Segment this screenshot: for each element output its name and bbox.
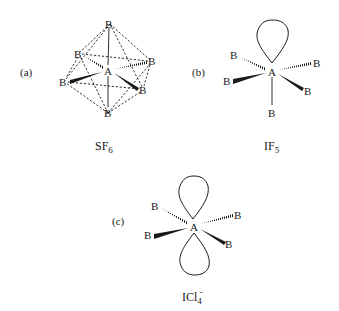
panel-a: (a) B B B B B B A SF [20, 18, 155, 155]
ligand-back-right: B [313, 57, 320, 69]
ligand-back-left: B [74, 48, 81, 60]
formula-sf6: SF6 [95, 139, 113, 155]
bond-hashed-back-right [278, 62, 311, 70]
bond-wedge-front-left [154, 228, 188, 239]
bond-hashed-back-left [84, 56, 103, 69]
central-atom: A [104, 65, 112, 77]
bond-wedge-front-right [114, 73, 139, 91]
panel-b: (b) B B B B B A IF5 [192, 20, 320, 155]
formula-if5: IF5 [264, 139, 280, 155]
ligand-back-left: B [230, 49, 237, 61]
ligand-front-right: B [225, 238, 232, 250]
lone-pair-lobe-top [179, 176, 208, 219]
bond-wedge-front-left [233, 73, 266, 84]
bond-hashed-back-right [115, 61, 147, 69]
molecular-geometry-figure: (a) B B B B B B A SF [0, 0, 339, 311]
ligand-bottom: B [104, 107, 111, 119]
lone-pair-lobe [257, 20, 288, 63]
ligand-front-right: B [139, 84, 146, 96]
bond-wedge-front-right [200, 229, 226, 245]
ligand-back-right: B [234, 209, 241, 221]
bond-wedge-front-right [278, 74, 304, 91]
central-atom: A [190, 221, 198, 233]
formula-icl4-minus: ICl4- [182, 287, 203, 306]
panel-c-label: (c) [112, 215, 125, 228]
panel-b-label: (b) [192, 66, 205, 79]
ligand-front-left: B [59, 76, 66, 88]
panel-c: (c) B B B B A ICl4- [112, 176, 241, 306]
bond-hashed-back-left [240, 57, 266, 71]
bond-axial-top [108, 28, 109, 65]
ligand-back-left: B [151, 200, 158, 212]
ligand-front-left: B [144, 229, 151, 241]
ligand-bottom: B [268, 107, 275, 119]
ligand-front-left: B [223, 75, 230, 87]
lone-pair-lobe-bottom [180, 233, 209, 275]
bond-wedge-front-left [70, 72, 102, 84]
ligand-front-right: B [304, 85, 311, 97]
bond-hashed-back-right [200, 214, 233, 224]
ligand-back-right: B [148, 55, 155, 67]
bond-hashed-back-left [161, 208, 188, 225]
central-atom: A [268, 66, 276, 78]
ligand-top: B [105, 18, 112, 30]
panel-a-label: (a) [20, 66, 33, 79]
